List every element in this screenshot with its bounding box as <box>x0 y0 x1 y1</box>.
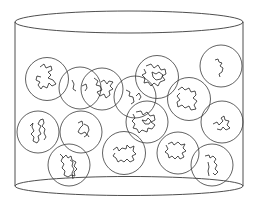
random-walk-chain <box>72 80 87 91</box>
coil-sphere-boundary <box>26 58 69 101</box>
polymer-coil <box>168 78 211 121</box>
random-walk-chain <box>36 64 56 89</box>
coil-sphere-boundary <box>17 111 59 153</box>
coil-sphere-boundary <box>200 45 242 87</box>
random-walk-chain <box>30 119 46 143</box>
coil-sphere-boundary <box>59 67 101 109</box>
polymer-coil <box>201 101 243 143</box>
polymer-coil <box>48 144 90 186</box>
random-walk-chain <box>113 145 136 162</box>
polymer-coils-in-cylinder-diagram <box>0 0 257 206</box>
polymer-coils-group <box>17 45 243 186</box>
random-walk-chain <box>205 155 218 176</box>
random-walk-chain <box>215 59 223 77</box>
random-walk-chain <box>177 87 197 110</box>
random-walk-chain <box>142 64 166 86</box>
random-walk-chain <box>165 142 186 159</box>
coil-sphere-boundary <box>168 78 211 121</box>
polymer-coil <box>60 111 102 153</box>
polymer-coil <box>200 45 242 87</box>
cylinder-top-ellipse <box>15 11 243 33</box>
polymer-coil <box>126 101 168 143</box>
coil-sphere-boundary <box>126 101 168 143</box>
polymer-coil <box>157 132 199 174</box>
random-walk-chain <box>60 154 77 179</box>
polymer-coil <box>17 111 59 153</box>
coil-sphere-boundary <box>81 68 123 110</box>
coil-sphere-boundary <box>60 111 102 153</box>
random-walk-chain <box>78 121 89 137</box>
coil-sphere-boundary <box>48 144 90 186</box>
polymer-coil <box>59 67 101 109</box>
polymer-coil <box>26 58 69 101</box>
coil-sphere-boundary <box>157 132 199 174</box>
diagram-canvas <box>0 0 257 206</box>
random-walk-chain <box>94 78 113 98</box>
random-walk-chain <box>132 111 155 133</box>
polymer-coil <box>103 132 146 175</box>
polymer-coil <box>81 68 123 110</box>
random-walk-chain <box>213 116 230 130</box>
coil-sphere-boundary <box>103 132 146 175</box>
random-walk-chain <box>126 90 141 104</box>
